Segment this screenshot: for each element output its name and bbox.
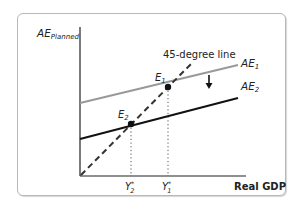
chart-svg: AEPlanned 45-degree line E1 E2 AE1 AE2 Y… xyxy=(0,0,299,212)
line-45-label: 45-degree line xyxy=(163,49,236,60)
line-45-degree xyxy=(81,63,192,175)
ae1-label: AE1 xyxy=(240,57,259,71)
e1-label: E1 xyxy=(155,72,166,85)
y1-star-label: Y*1 xyxy=(162,180,172,195)
ae2-line xyxy=(80,98,238,139)
ae2-label: AE2 xyxy=(240,80,260,94)
y2-star-label: Y*2 xyxy=(125,180,135,195)
shift-down-arrow-icon xyxy=(206,75,213,89)
e2-label: E2 xyxy=(118,109,129,122)
y-axis-label: AEPlanned xyxy=(36,27,79,41)
x-axis-label: Real GDP xyxy=(234,181,286,192)
